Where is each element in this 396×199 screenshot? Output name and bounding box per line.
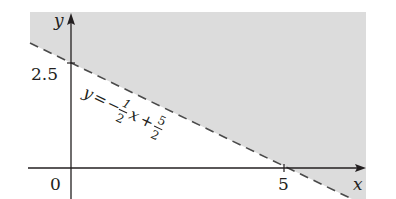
x-tick-label: 5: [278, 174, 289, 194]
origin-label: 0: [50, 174, 61, 194]
y-axis-label: y: [53, 10, 64, 30]
y-tick-label: 2.5: [31, 64, 58, 84]
shaded-region: [30, 12, 366, 199]
inequality-graph: y x 2.5 5 0 y = − 1 2 x + 5 2: [0, 0, 396, 199]
x-axis-label: x: [353, 174, 363, 194]
